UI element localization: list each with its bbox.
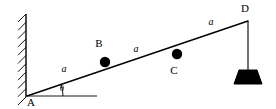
point-mass-b (100, 57, 110, 67)
wall-hatch-line (18, 89, 26, 97)
wall-hatch-line (18, 64, 26, 72)
point-label-c: C (170, 64, 177, 76)
wall-hatch-line (18, 72, 26, 80)
wall-hatch-line (18, 14, 26, 22)
angle-label-theta: θ (60, 83, 64, 93)
physics-diagram: A B C D a a a θ (0, 0, 276, 109)
load-block-trapezoid (234, 70, 262, 84)
diagram-canvas: A B C D a a a θ (0, 0, 276, 109)
wall-hatch-line (18, 47, 26, 55)
wall-hatch-line (18, 80, 26, 88)
segment-label-bc: a (134, 43, 139, 54)
hanging-load (234, 21, 262, 84)
wall-hatch-marks (18, 14, 26, 105)
wall-hatch-line (18, 39, 26, 47)
wall-support (18, 14, 26, 105)
point-label-b: B (95, 37, 102, 49)
wall-hatch-line (18, 22, 26, 30)
segment-label-cd: a (209, 16, 214, 27)
wall-hatch-line (18, 56, 26, 64)
point-mass-c (172, 49, 182, 59)
point-label-a: A (27, 96, 35, 108)
wall-hatch-line (18, 31, 26, 39)
segment-label-ab: a (62, 63, 67, 74)
wall-hatch-line (18, 97, 26, 105)
point-label-d: D (241, 2, 249, 14)
